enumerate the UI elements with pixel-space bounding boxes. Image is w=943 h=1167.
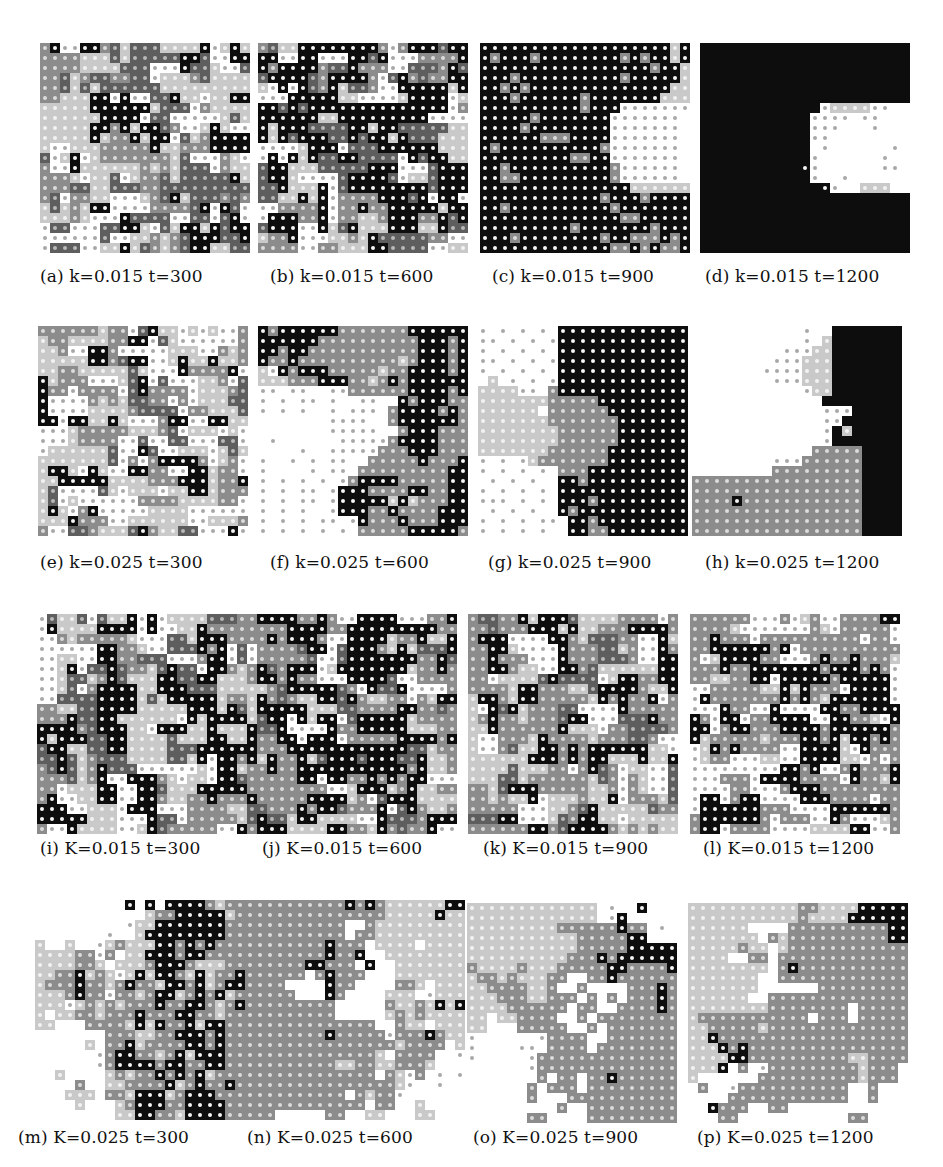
panel-caption: (e) k=0.025 t=300 bbox=[40, 552, 203, 572]
panel-caption: (n) K=0.025 t=600 bbox=[247, 1127, 413, 1147]
panel-caption: (h) k=0.025 t=1200 bbox=[705, 552, 879, 572]
panel-caption: (j) K=0.015 t=600 bbox=[262, 838, 422, 858]
panel-caption: (b) k=0.015 t=600 bbox=[270, 266, 433, 286]
panel-caption: (f) k=0.025 t=600 bbox=[270, 552, 429, 572]
lattice-grid bbox=[688, 903, 908, 1123]
lattice-grid bbox=[692, 326, 902, 536]
panel-caption: (g) k=0.025 t=900 bbox=[488, 552, 651, 572]
lattice-grid bbox=[35, 900, 265, 1120]
panel-caption: (l) K=0.015 t=1200 bbox=[703, 838, 874, 858]
lattice-grid bbox=[478, 326, 688, 536]
lattice-grid bbox=[468, 614, 678, 834]
panel-caption: (d) k=0.015 t=1200 bbox=[705, 266, 879, 286]
panel-caption: (o) K=0.025 t=900 bbox=[473, 1127, 638, 1147]
panel-caption: (p) K=0.025 t=1200 bbox=[697, 1127, 874, 1147]
panel-caption: (c) k=0.015 t=900 bbox=[492, 266, 654, 286]
lattice-grid bbox=[258, 326, 468, 536]
lattice-grid bbox=[258, 43, 468, 253]
lattice-grid bbox=[467, 903, 687, 1123]
panel-caption: (a) k=0.015 t=300 bbox=[40, 266, 203, 286]
panel-caption: (k) K=0.015 t=900 bbox=[483, 838, 648, 858]
lattice-grid bbox=[38, 326, 248, 536]
panel-caption: (i) K=0.015 t=300 bbox=[40, 838, 200, 858]
lattice-grid bbox=[700, 43, 910, 253]
lattice-grid bbox=[40, 43, 250, 253]
lattice-grid bbox=[247, 614, 457, 834]
panel-caption: (m) K=0.025 t=300 bbox=[18, 1127, 189, 1147]
lattice-grid bbox=[245, 900, 465, 1120]
lattice-grid bbox=[690, 614, 900, 834]
lattice-grid bbox=[37, 614, 247, 834]
lattice-grid bbox=[480, 43, 690, 253]
